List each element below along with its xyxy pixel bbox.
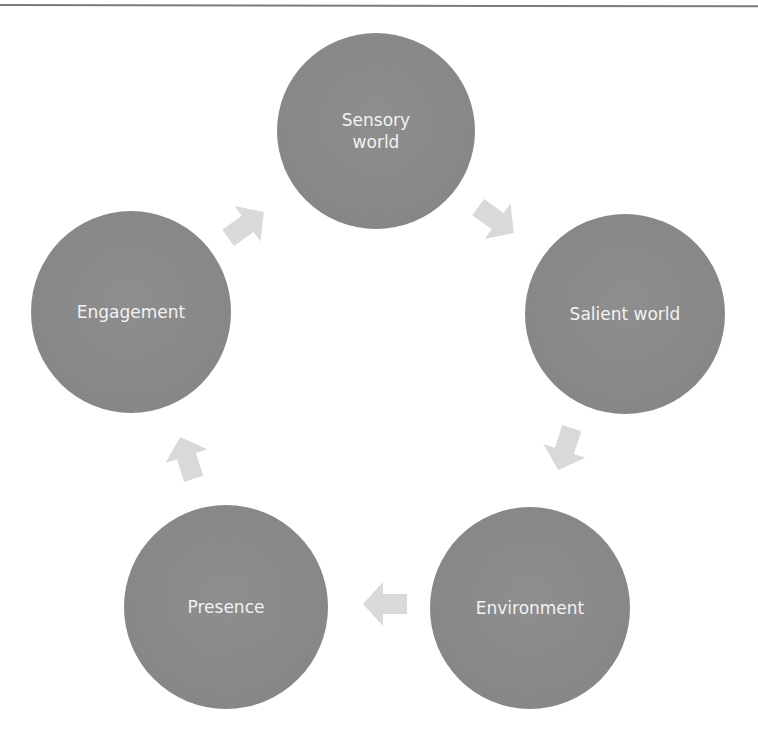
node-label: Sensory world <box>332 109 420 153</box>
node-environment: Environment <box>430 507 630 709</box>
node-label: Salient world <box>560 303 691 325</box>
node-label: Environment <box>466 597 595 619</box>
node-label: Engagement <box>67 301 195 323</box>
arrow-down-left-icon <box>535 419 595 479</box>
arrow-down-right-icon <box>462 186 529 253</box>
node-presence: Presence <box>124 505 328 709</box>
node-sensory-world: Sensory world <box>277 33 475 229</box>
node-salient-world: Salient world <box>525 214 725 414</box>
node-engagement: Engagement <box>31 211 231 413</box>
arrow-up-right-icon <box>212 191 279 258</box>
node-label: Presence <box>178 596 275 618</box>
top-divider-line <box>0 4 758 7</box>
arrow-left-icon <box>361 580 409 628</box>
arrow-up-icon <box>157 428 217 488</box>
